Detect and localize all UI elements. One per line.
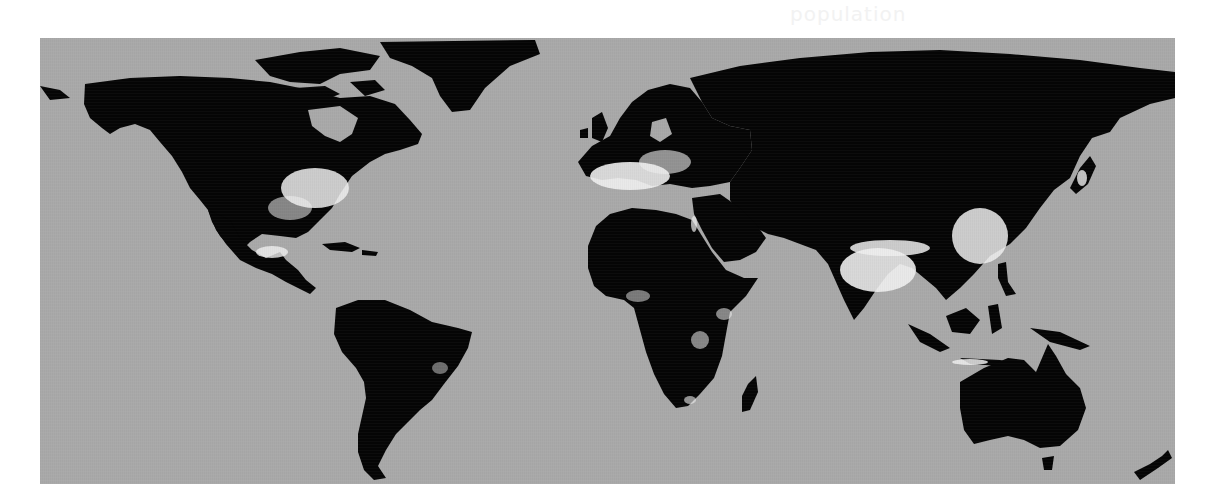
- hotspot-great-lakes-africa: [691, 331, 709, 349]
- hotspot-central-europe: [639, 150, 691, 174]
- madagascar: [742, 376, 758, 412]
- world-population-map: [40, 38, 1175, 484]
- hotspot-java: [952, 359, 988, 365]
- caribbean-islands: [322, 242, 378, 256]
- hotspot-ganges: [850, 240, 930, 256]
- philippines: [998, 262, 1016, 296]
- hotspot-japan: [1077, 170, 1087, 186]
- new-zealand: [1134, 450, 1172, 480]
- world-map-svg: [40, 38, 1175, 484]
- hotspot-ethiopia: [716, 308, 732, 320]
- hotspot-mexico: [256, 246, 288, 258]
- maritime-southeast-asia: [908, 304, 1090, 366]
- british-isles: [580, 112, 608, 142]
- tasmania: [1042, 456, 1054, 470]
- hotspot-us-midwest: [268, 196, 312, 220]
- hotspot-se-brazil: [432, 362, 448, 374]
- ghost-heading-text: population: [790, 2, 906, 26]
- greenland-landmass: [380, 40, 540, 112]
- hotspot-south-africa: [684, 396, 696, 404]
- hotspot-nigeria: [626, 290, 650, 302]
- south-america-landmass: [334, 300, 472, 480]
- asia-landmass: [690, 50, 1175, 320]
- hotspot-nile: [691, 216, 697, 232]
- hotspot-eastern-china: [952, 208, 1008, 264]
